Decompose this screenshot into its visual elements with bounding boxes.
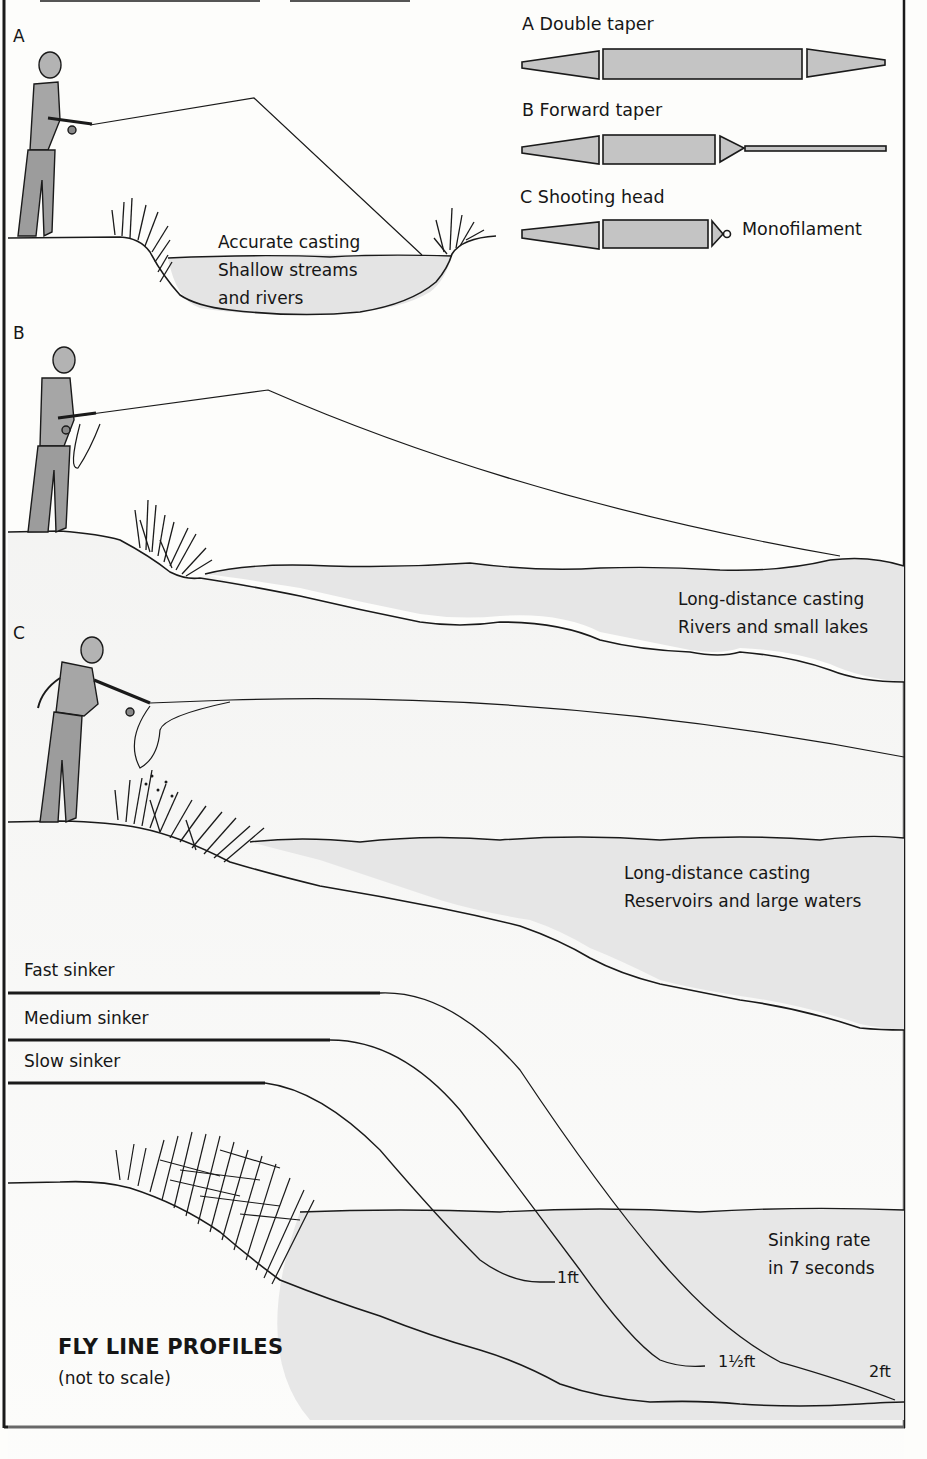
angler-b-icon [28, 347, 100, 532]
panel-c-note: Long-distance casting Reservoirs and lar… [624, 859, 861, 915]
sinking-rate-line-1: Sinking rate [768, 1226, 875, 1254]
monofilament-label: Monofilament [742, 221, 862, 239]
slow-sinker-label: Slow sinker [24, 1053, 120, 1070]
panel-b-note: Long-distance casting Rivers and small l… [678, 585, 868, 641]
slow-sinker-depth: 1ft [557, 1270, 579, 1286]
panel-b-note-line-1: Long-distance casting [678, 585, 868, 613]
fast-sinker-depth: 2ft [869, 1364, 891, 1380]
double-taper-icon [522, 49, 885, 79]
panel-letter-c: C [13, 625, 25, 642]
taper-label-forward: B Forward taper [522, 102, 662, 120]
medium-sinker-label: Medium sinker [24, 1010, 148, 1027]
taper-label-shooting-head: C Shooting head [520, 189, 665, 207]
panel-b-note-line-2: Rivers and small lakes [678, 613, 868, 641]
medium-sinker-depth: 1½ft [718, 1354, 755, 1370]
panel-c-note-line-1: Long-distance casting [624, 859, 861, 887]
shooting-head-icon [522, 220, 731, 249]
angler-a-icon [18, 52, 92, 236]
panel-a-note-line-3: and rivers [218, 284, 360, 312]
panel-c-note-line-2: Reservoirs and large waters [624, 887, 861, 915]
panel-letter-b: B [13, 325, 25, 342]
figure-title: FLY LINE PROFILES [58, 1337, 283, 1358]
figure-subtitle: (not to scale) [58, 1370, 171, 1387]
forward-taper-icon [522, 135, 886, 164]
panel-letter-a: A [13, 28, 25, 45]
fly-line-profiles-illustration: A Double taper B Forward taper C Shootin… [0, 0, 927, 1459]
sinking-rate-line-2: in 7 seconds [768, 1254, 875, 1282]
fast-sinker-label: Fast sinker [24, 962, 115, 979]
taper-label-double: A Double taper [522, 16, 654, 34]
sinking-rate-note: Sinking rate in 7 seconds [768, 1226, 875, 1282]
panel-a-note: Accurate casting Shallow streams and riv… [218, 228, 360, 312]
panel-a-note-line-1: Accurate casting [218, 228, 360, 256]
panel-a-note-line-2: Shallow streams [218, 256, 360, 284]
